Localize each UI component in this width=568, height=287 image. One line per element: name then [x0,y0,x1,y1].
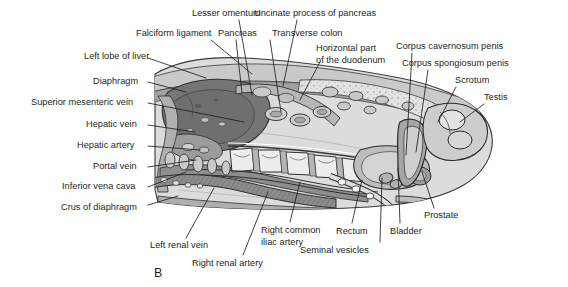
label-transverse-colon: Transverse colon [272,28,342,40]
label-diaphragm: Diaphragm [93,76,138,88]
label-seminal-vesicles: Seminal vesicles [300,245,369,257]
label-left-lobe-of-liver: Left lobe of liver [84,51,149,63]
label-falciform-ligament: Falciform ligament [136,28,211,40]
label-uncinate-process-of-pancreas: Uncinate process of pancreas [254,8,376,20]
figure-letter: B [154,266,163,280]
label-portal-vein: Portal vein [93,161,137,173]
label-hepatic-vein: Hepatic vein [86,119,137,131]
label-lesser-omentum: Lesser omentum [192,8,261,20]
label-scrotum: Scrotum [455,75,489,87]
anatomical-figure: Lesser omentumUncinate process of pancre… [0,0,568,287]
label-left-renal-vein: Left renal vein [150,240,208,252]
label-testis: Testis [484,92,508,104]
label-rectum: Rectum [336,226,368,238]
testis-shape [439,110,465,130]
label-right-renal-artery: Right renal artery [192,258,263,270]
label-inferior-vena-cava: Inferior vena cava [62,181,135,193]
label-superior-mesenteric-vein: Superior mesenteric vein [31,97,133,109]
label-corpus-cavernosum-penis: Corpus cavernosum penis [396,41,503,53]
label-corpus-spongiosum-penis: Corpus spongiosum penis [402,58,509,70]
label-horizontal-part-of-the-duodenum: Horizontal part of the duodenum [316,43,385,66]
label-hepatic-artery: Hepatic artery [77,140,134,152]
label-pancreas: Pancreas [218,28,257,40]
label-prostate: Prostate [424,210,458,222]
label-crus-of-diaphragm: Crus of diaphragm [61,202,137,214]
label-bladder: Bladder [390,226,422,238]
